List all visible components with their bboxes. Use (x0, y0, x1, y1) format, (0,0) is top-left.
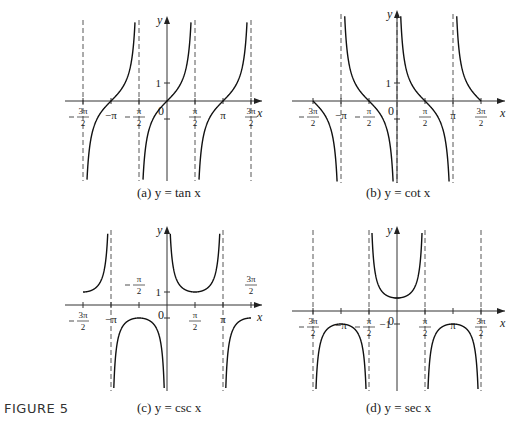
x-tick-label: 3π2 (69, 106, 89, 128)
svg-text:−π: −π (105, 109, 117, 121)
svg-text:2: 2 (479, 118, 484, 128)
svg-text:3π: 3π (308, 106, 318, 116)
x-axis-arrow-icon (497, 308, 505, 314)
x-axis-label: x (499, 106, 506, 120)
tick-label-zero: 0 (158, 104, 164, 118)
y-axis-label: y (386, 223, 393, 237)
svg-text:2: 2 (137, 286, 142, 296)
svg-text:2: 2 (137, 118, 142, 128)
chart-panel-b: xy3π2−ππ20π2π3π21 (292, 7, 506, 183)
svg-text:π: π (137, 274, 142, 284)
x-tick-label: 3π2 (245, 274, 257, 296)
figure-label: FIGURE 5 (4, 401, 69, 416)
tick-label-zero: 0 (388, 104, 394, 118)
svg-text:3π: 3π (476, 106, 486, 116)
svg-text:π: π (220, 313, 226, 325)
svg-text:π: π (450, 319, 456, 331)
svg-text:3π: 3π (476, 316, 486, 326)
svg-text:π: π (193, 106, 198, 116)
svg-text:3π: 3π (246, 274, 256, 284)
svg-text:2: 2 (249, 118, 254, 128)
svg-text:π: π (367, 106, 372, 116)
svg-text:2: 2 (367, 118, 372, 128)
svg-text:−π: −π (105, 313, 117, 325)
svg-text:2: 2 (81, 322, 86, 332)
x-tick-label: −π (105, 313, 117, 325)
y-axis-arrow-icon (164, 226, 170, 234)
svg-text:2: 2 (367, 328, 372, 338)
svg-text:2: 2 (311, 118, 316, 128)
x-tick-label: π (220, 313, 226, 325)
svg-text:2: 2 (423, 118, 428, 128)
y-axis-label: y (156, 223, 163, 237)
figure-canvas: xy3π2−ππ20π2π3π21xy3π2−ππ20π2π3π21xy3π2−… (0, 0, 515, 421)
x-tick-label: π (220, 109, 226, 121)
x-tick-label: π2 (125, 106, 145, 128)
caption-b: (b) y = cot x (366, 185, 430, 201)
svg-text:2: 2 (479, 328, 484, 338)
x-axis-label: x (499, 316, 506, 330)
svg-text:π: π (423, 106, 428, 116)
x-tick-label: −π (335, 109, 347, 121)
chart-panel-c: xy3π2−ππ20π2π3π21 (65, 223, 263, 391)
x-tick-label: 3π2 (69, 310, 89, 332)
x-tick-label: π2 (419, 316, 431, 338)
x-tick-label: 3π2 (475, 106, 487, 128)
svg-text:2: 2 (81, 118, 86, 128)
y-axis-label: y (386, 7, 393, 21)
y-axis-arrow-icon (164, 16, 170, 24)
svg-text:π: π (450, 109, 456, 121)
svg-text:3π: 3π (78, 106, 88, 116)
x-tick-label: 3π2 (245, 106, 257, 128)
caption-d: (d) y = sec x (366, 400, 431, 416)
x-axis-label: x (256, 310, 263, 324)
x-tick-label: 3π2 (475, 316, 487, 338)
chart-panel-a: xy3π2−ππ20π2π3π21 (65, 13, 263, 181)
svg-text:2: 2 (423, 328, 428, 338)
x-tick-label: 3π2 (299, 316, 319, 338)
svg-text:2: 2 (193, 322, 198, 332)
y-tick-label: 1 (156, 77, 162, 89)
x-tick-label: π (450, 319, 456, 331)
y-tick-label: 1 (156, 286, 162, 298)
x-tick-label: π2 (189, 106, 201, 128)
svg-text:π: π (367, 316, 372, 326)
svg-text:−π: −π (335, 109, 347, 121)
caption-c: (c) y = csc x (137, 400, 201, 416)
tick-label-zero: 0 (158, 308, 164, 322)
chart-panel-d: xy3π2−ππ20π2π3π2−1 (292, 223, 506, 391)
svg-text:2: 2 (193, 118, 198, 128)
caption-a: (a) y = tan x (137, 185, 201, 201)
x-tick-label: π (450, 109, 456, 121)
x-axis-arrow-icon (497, 98, 505, 104)
svg-text:2: 2 (311, 328, 316, 338)
x-tick-label: π2 (355, 106, 375, 128)
x-axis-arrow-icon (254, 98, 262, 104)
x-tick-label: −π (105, 109, 117, 121)
y-tick-label: 1 (386, 77, 392, 89)
x-tick-label: π2 (189, 310, 201, 332)
y-axis-arrow-icon (394, 226, 400, 234)
svg-text:π: π (220, 109, 226, 121)
svg-text:2: 2 (249, 286, 254, 296)
svg-text:3π: 3π (78, 310, 88, 320)
x-axis-label: x (256, 106, 263, 120)
x-axis-arrow-icon (254, 302, 262, 308)
svg-text:3π: 3π (246, 106, 256, 116)
svg-text:3π: 3π (308, 316, 318, 326)
x-tick-label: π2 (419, 106, 431, 128)
svg-text:π: π (137, 106, 142, 116)
svg-text:π: π (423, 316, 428, 326)
x-tick-label: π2 (125, 274, 145, 296)
svg-text:π: π (193, 310, 198, 320)
y-axis-label: y (156, 13, 163, 27)
y-axis-arrow-icon (394, 10, 400, 18)
x-tick-label: 3π2 (299, 106, 319, 128)
y-tick-label: −1 (379, 318, 391, 330)
